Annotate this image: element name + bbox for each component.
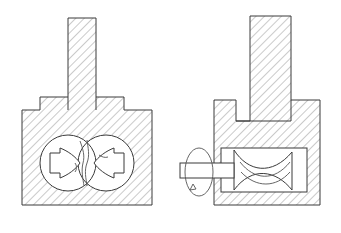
technical-drawing-svg [0, 0, 341, 233]
drive-shaft-fill [180, 163, 234, 178]
rotation-indicator-arrowhead [190, 184, 196, 190]
left-view [22, 18, 152, 205]
diagram-root: Cross-section of a twin-rotor pump housi… [0, 0, 341, 233]
right-view [180, 16, 320, 205]
